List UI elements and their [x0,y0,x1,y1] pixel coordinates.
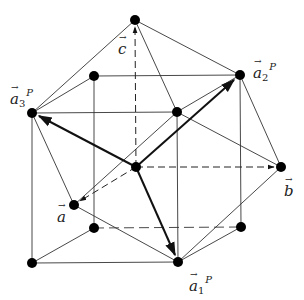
edge-apex-a2P [135,20,240,75]
edge-front-bottom [32,262,178,263]
point-center [131,162,141,172]
point-back-top-left [89,71,99,81]
point-front-bottom-left [27,258,37,268]
edge-ftr-b-tip [177,112,281,167]
edge-fbl-back-bottom-left [32,228,94,263]
vector-c [135,27,136,167]
edge-a3P-front-top-right [32,112,177,113]
label-a3P: a3P [10,88,33,109]
point-front-top-right [172,107,182,117]
edge-a3P-a-tip [32,113,74,205]
edge-back-top [94,75,240,76]
edge-front-right-vertical [177,112,178,262]
edge-apex-front-top-right [135,20,177,112]
point-back-bottom-left [89,223,99,233]
point-back-bottom-right [236,222,246,232]
edge-a2P-front-top-right [177,75,240,112]
edge-a2P-b-tip [240,75,281,167]
edge-a3P-back-top-left [32,76,94,113]
edge-b-tip-a1P [178,167,281,262]
point-a2P [235,70,245,80]
vector-a [80,167,136,201]
label-a2P: a2P [253,62,276,83]
label-c: c [118,42,126,57]
vector-a2P [136,80,234,167]
label-b: b [284,184,294,199]
point-b-tip [276,162,286,172]
point-a-tip [69,200,79,210]
edge-a-tip-a1P [74,205,178,262]
point-a1P [173,257,183,267]
point-a3P [27,108,37,118]
label-a: a [57,210,66,225]
edge-ftr-a-tip [74,112,177,205]
lattice-points [27,15,286,268]
lattice-diagram [0,0,304,300]
edge-back-bottom [94,227,241,228]
point-apex-top [130,15,140,25]
edge-bbr-a1P [178,227,241,262]
label-a1P: a1P [189,275,212,296]
